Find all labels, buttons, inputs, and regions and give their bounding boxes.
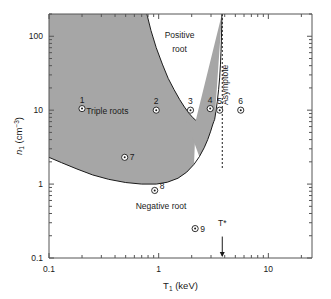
y-tick-label: 1 [38, 179, 43, 189]
point-marker-dot [240, 109, 242, 111]
point-label: 4 [208, 95, 213, 105]
data-point[interactable]: 2 [153, 96, 159, 113]
t-star-label: T* [218, 218, 227, 228]
data-point[interactable]: 4 [207, 95, 213, 112]
point-label: 8 [160, 181, 165, 191]
data-point[interactable]: 1 [79, 95, 85, 112]
scatter-plot: 0.11100.1110100T1 (keV)n1 (cm−3)Positive… [0, 0, 331, 299]
point-marker-dot [219, 109, 221, 111]
chart-figure: 0.11100.1110100T1 (keV)n1 (cm−3)Positive… [0, 0, 331, 299]
point-marker-dot [154, 189, 156, 191]
region-label: Negative root [136, 201, 187, 211]
region-label: root [172, 44, 187, 54]
point-label: 5 [217, 96, 222, 106]
point-label: 6 [238, 96, 243, 106]
point-marker-dot [194, 228, 196, 230]
x-tick-label: 10 [264, 264, 274, 274]
data-point[interactable]: 9 [192, 224, 205, 234]
point-marker-dot [155, 109, 157, 111]
y-tick-label: 0.1 [31, 253, 43, 263]
point-marker-dot [209, 108, 211, 110]
y-tick-label: 100 [29, 31, 43, 41]
data-point[interactable]: 6 [238, 96, 244, 113]
point-label: 2 [154, 96, 159, 106]
y-tick-label: 10 [34, 105, 44, 115]
region-label: Triple roots [86, 106, 128, 116]
point-label: 3 [188, 96, 193, 106]
data-point[interactable]: 3 [187, 96, 193, 113]
y-axis-title: n1 (cm−3) [13, 117, 25, 155]
svg-text:n1 (cm−3): n1 (cm−3) [13, 117, 25, 155]
point-marker-dot [189, 109, 191, 111]
x-tick-label: 1 [156, 264, 161, 274]
x-tick-label: 0.1 [43, 264, 55, 274]
region-label: Positive [165, 30, 195, 40]
point-label: 9 [200, 224, 205, 234]
point-marker-dot [124, 156, 126, 158]
point-label: 1 [80, 95, 85, 105]
data-point[interactable]: 5 [217, 96, 223, 113]
point-label: 7 [130, 152, 135, 162]
t-star-arrow-head [220, 252, 225, 257]
point-marker-dot [81, 108, 83, 110]
x-axis-title: T1 (keV) [163, 280, 198, 292]
